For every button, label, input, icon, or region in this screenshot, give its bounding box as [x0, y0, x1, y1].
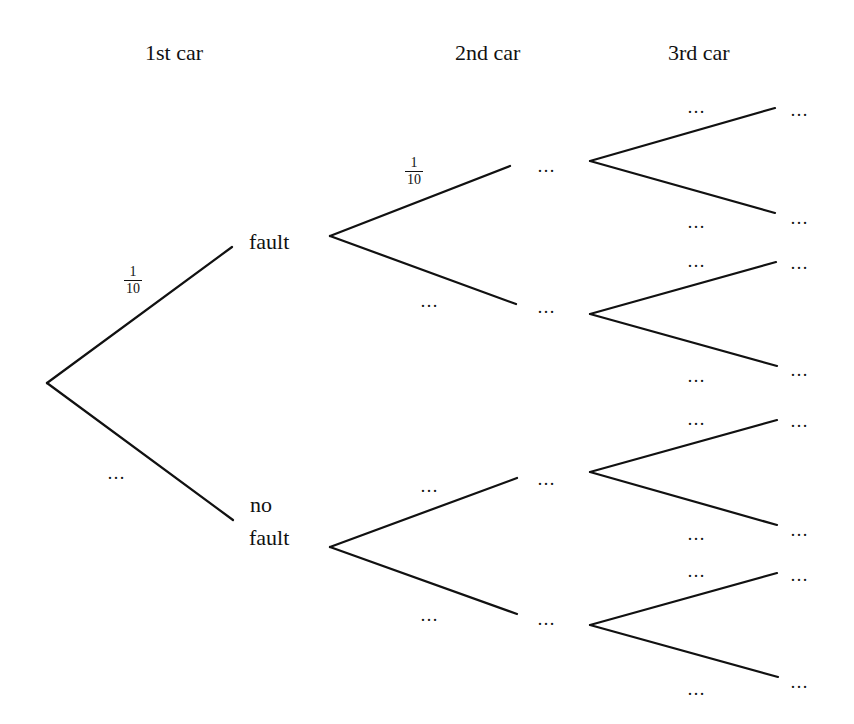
- prob-3rd-8: …: [687, 680, 707, 698]
- node-2nd-2: …: [537, 298, 557, 316]
- prob-nofault-fault: …: [420, 477, 440, 495]
- prob-nofault-nofault: …: [420, 606, 440, 624]
- node-3rd-4: …: [790, 361, 810, 379]
- prob-fault-fault-fraction: 1 10: [405, 156, 423, 187]
- branch-nofault-nofault: [330, 547, 517, 614]
- header-2nd-car: 2nd car: [455, 42, 520, 64]
- prob-3rd-1: …: [687, 98, 707, 116]
- prob-3rd-2: …: [687, 213, 707, 231]
- prob-3rd-7: …: [687, 562, 707, 580]
- header-1st-car: 1st car: [145, 42, 203, 64]
- prob-3rd-4: …: [687, 367, 707, 385]
- node-no-fault-line1: no: [250, 494, 272, 516]
- prob-fault-nofault: …: [420, 292, 440, 310]
- prob-3rd-6: …: [687, 525, 707, 543]
- node-3rd-1: …: [790, 101, 810, 119]
- fraction-numerator: 1: [411, 156, 418, 170]
- node-3rd-6: …: [790, 521, 810, 539]
- node-3rd-8: …: [790, 673, 810, 691]
- node-2nd-3: …: [537, 470, 557, 488]
- prob-3rd-5: …: [687, 410, 707, 428]
- prob-no-fault: …: [107, 464, 127, 482]
- fraction-numerator: 1: [130, 265, 137, 279]
- prob-fault-fraction: 1 10: [124, 265, 142, 296]
- branch-root-nofault: [47, 383, 233, 520]
- node-2nd-4: …: [537, 610, 557, 628]
- node-3rd-5: …: [790, 412, 810, 430]
- node-2nd-1: …: [537, 157, 557, 175]
- prob-3rd-3: …: [687, 252, 707, 270]
- fraction-denominator: 10: [126, 282, 140, 296]
- node-3rd-7: …: [790, 566, 810, 584]
- node-fault: fault: [249, 231, 289, 253]
- header-3rd-car: 3rd car: [668, 42, 730, 64]
- node-3rd-3: …: [790, 254, 810, 272]
- node-no-fault-line2: fault: [249, 527, 289, 549]
- node-3rd-2: …: [790, 209, 810, 227]
- fraction-denominator: 10: [407, 173, 421, 187]
